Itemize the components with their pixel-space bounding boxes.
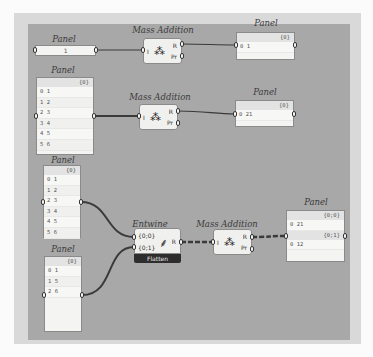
output-param-label: R — [243, 233, 247, 240]
panel-label: Panel — [254, 18, 278, 28]
output-port[interactable] — [179, 239, 183, 245]
output-port[interactable] — [80, 292, 84, 298]
output-port[interactable] — [292, 111, 296, 117]
list-item: 0 1 — [44, 175, 80, 186]
panel-label: Panel — [51, 244, 75, 254]
panel-list-input-a[interactable]: {0} 0 1 1 2 2 3 3 4 4 5 5 6 — [43, 165, 81, 238]
panel-label: Panel — [51, 65, 75, 75]
list-item: 0 12 — [287, 240, 344, 251]
panel-output[interactable]: {0} 0 1 — [236, 32, 295, 60]
output-port[interactable] — [176, 108, 180, 114]
list-item: 5 6 — [37, 140, 93, 151]
list-item: 0 1 — [237, 42, 294, 53]
output-param-label: Pr — [167, 119, 173, 126]
wire — [252, 236, 286, 237]
output-param-label: Pr — [171, 53, 177, 60]
input-port[interactable] — [34, 113, 38, 119]
branch-header: {0} — [237, 33, 294, 42]
entwine-component[interactable]: {0;0} {0;1} ⸙ R — [134, 228, 181, 254]
output-port[interactable] — [92, 113, 96, 119]
list-item: 2 3 — [44, 196, 80, 207]
input-port[interactable] — [137, 113, 141, 119]
list-item: 0 21 — [287, 220, 344, 231]
panel-output[interactable]: {0} 0 21 — [235, 100, 294, 127]
panel-label: Panel — [51, 155, 75, 165]
mass-addition-icon: ⁂ — [224, 236, 235, 249]
input-param-label: I — [143, 114, 145, 121]
input-port[interactable] — [42, 292, 46, 298]
input-port[interactable] — [41, 199, 45, 205]
branch-header: {0} — [45, 257, 81, 266]
list-item: 3 4 — [44, 207, 80, 218]
list-item: 4 5 — [37, 129, 93, 140]
output-port[interactable] — [79, 199, 83, 205]
list-item: 5 6 — [44, 228, 80, 239]
component-label: Mass Addition — [129, 92, 191, 102]
branch-header: {0} — [236, 101, 293, 110]
panel-list-input[interactable]: {0} 0 1 1 2 2 3 3 4 4 5 5 6 — [36, 77, 94, 155]
panel-label: Panel — [52, 34, 76, 44]
wire — [178, 111, 235, 114]
branch-header: {0} — [44, 166, 80, 175]
output-param-label: R — [169, 108, 173, 115]
list-item: 0 21 — [236, 110, 293, 121]
panel-number-input[interactable]: 1 — [35, 45, 96, 56]
mass-addition-component[interactable]: I ⁂ R Pr — [139, 104, 178, 130]
panel-list-input-b[interactable]: {0} 0 1 1 5 2 6 — [44, 256, 82, 332]
output-port[interactable] — [94, 47, 98, 53]
input-port[interactable] — [141, 47, 145, 53]
mass-addition-component[interactable]: I ⁂ R Pr — [213, 229, 252, 255]
input-param-label: {0;1} — [138, 244, 155, 251]
list-item: 0 1 — [37, 87, 93, 98]
list-item: 0 1 — [45, 266, 81, 277]
entwine-icon: ⸙ — [159, 234, 168, 251]
panel-label: Panel — [304, 197, 328, 207]
input-port[interactable] — [284, 233, 288, 239]
mass-addition-icon: ⁂ — [154, 45, 165, 58]
wire — [82, 247, 134, 295]
wire — [81, 202, 134, 237]
panel-output-tree[interactable]: {0;0} 0 21 {0;1} 0 12 — [286, 210, 345, 262]
wire — [182, 44, 236, 45]
output-port[interactable] — [293, 42, 297, 48]
list-item: 3 4 — [37, 119, 93, 130]
component-label: Mass Addition — [132, 25, 194, 35]
input-port[interactable] — [234, 42, 238, 48]
list-item: 1 2 — [44, 186, 80, 197]
output-param-label: Pr — [241, 244, 247, 251]
output-port[interactable] — [250, 234, 254, 240]
panel-value: 1 — [36, 46, 95, 55]
output-param-label: R — [173, 42, 177, 49]
input-param-label: {0;0} — [138, 232, 155, 239]
input-port[interactable] — [211, 239, 215, 245]
input-port[interactable] — [33, 47, 37, 53]
output-port[interactable] — [180, 53, 184, 59]
component-label: Mass Addition — [196, 219, 258, 229]
branch-header: {0;0} — [287, 211, 344, 220]
output-port[interactable] — [250, 246, 254, 252]
input-port[interactable] — [233, 111, 237, 117]
output-port[interactable] — [180, 41, 184, 47]
input-param-label: I — [147, 48, 149, 55]
mass-addition-component[interactable]: I ⁂ R Pr — [143, 38, 182, 64]
input-port[interactable] — [132, 244, 136, 250]
mass-addition-icon: ⁂ — [150, 111, 161, 124]
input-param-label: I — [217, 239, 219, 246]
list-item: 1 5 — [45, 277, 81, 288]
list-item: 4 5 — [44, 217, 80, 228]
branch-header: {0} — [37, 78, 93, 87]
panel-label: Panel — [253, 87, 277, 97]
output-param-label: R — [172, 238, 176, 245]
flatten-toggle[interactable]: Flatten — [134, 254, 181, 263]
list-item: 2 3 — [37, 108, 93, 119]
branch-header: {0;1} — [287, 231, 344, 240]
list-item: 2 6 — [45, 287, 81, 298]
output-port[interactable] — [343, 233, 347, 239]
output-port[interactable] — [176, 120, 180, 126]
input-port[interactable] — [132, 234, 136, 240]
list-item: 1 2 — [37, 98, 93, 109]
